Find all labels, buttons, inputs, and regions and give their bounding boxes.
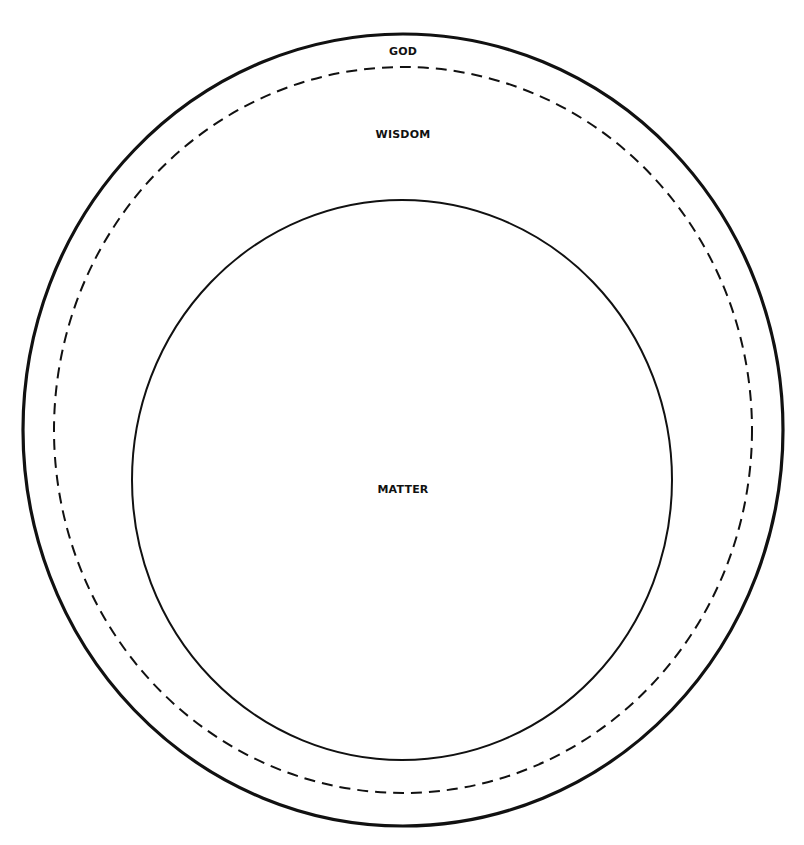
wisdom-label: WISDOM	[376, 128, 431, 141]
matter-inner-ellipse	[132, 200, 672, 760]
god-label: GOD	[389, 45, 417, 58]
wisdom-dashed-ellipse	[54, 67, 752, 793]
matter-label: MATTER	[377, 483, 428, 496]
